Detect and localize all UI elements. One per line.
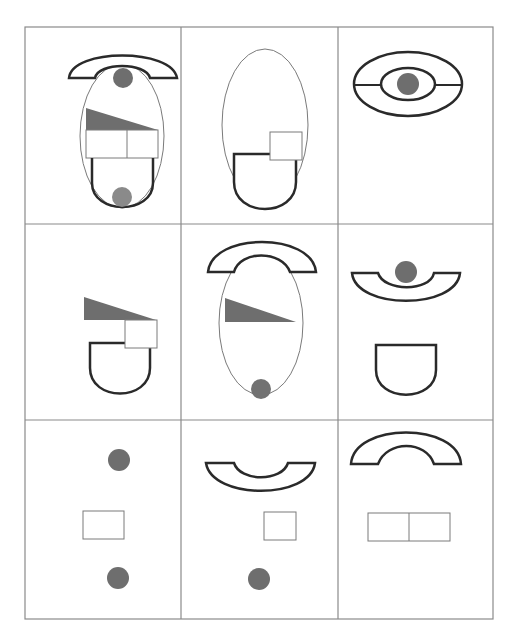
double-rect-shape — [86, 130, 158, 158]
puzzle-canvas — [0, 0, 517, 642]
cell-r2c2[interactable] — [208, 242, 316, 399]
circle-top-shape — [395, 261, 417, 283]
u-cup-shape — [376, 345, 436, 395]
cell-r3c2[interactable] — [206, 463, 315, 590]
arch-top-shape — [208, 242, 316, 272]
shaded-triangle-shape — [84, 297, 156, 320]
small-square-shape — [125, 320, 157, 348]
circle-center-shape — [397, 73, 419, 95]
shaded-triangle-shape — [86, 108, 158, 130]
cell-r1c2[interactable] — [222, 49, 308, 209]
circle-top-shape — [108, 449, 130, 471]
arch-top-shape — [351, 433, 461, 465]
small-square-shape — [270, 132, 302, 160]
cell-r1c1[interactable] — [69, 56, 177, 209]
shaded-triangle-shape — [225, 298, 296, 322]
u-cup-shape — [90, 343, 150, 394]
cell-r3c1[interactable] — [83, 449, 130, 589]
bowl-arch-shape — [206, 463, 315, 491]
circle-bottom-shape — [248, 568, 270, 590]
small-rect-shape — [83, 511, 124, 539]
matrix-puzzle — [0, 0, 517, 642]
circle-top-shape — [113, 68, 133, 88]
circle-bottom-shape — [107, 567, 129, 589]
cell-r2c3[interactable] — [352, 261, 460, 395]
circle-bottom-shape — [251, 379, 271, 399]
circle-bottom-shape — [112, 187, 132, 207]
cell-r1c3[interactable] — [354, 52, 462, 116]
small-square-shape — [264, 512, 296, 540]
cell-r3c3[interactable] — [351, 433, 461, 542]
u-cup-shape — [234, 154, 296, 209]
cell-r2c1[interactable] — [84, 297, 157, 394]
